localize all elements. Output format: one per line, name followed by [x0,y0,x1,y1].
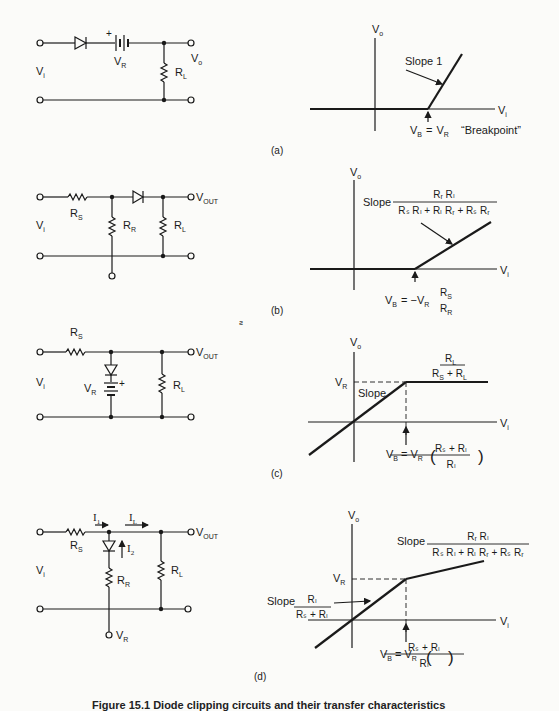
resistor-icon [159,374,165,393]
resistor-icon [161,63,167,82]
input-label-b: Vi [36,219,45,233]
slope2-numerator-d: Rᵣ Rₗ [467,531,489,542]
breakpoint-frac-num-b: RS [440,287,452,300]
diode-icon [133,191,143,203]
battery-icon [116,35,128,51]
y-axis-label-d: Vo [348,509,359,523]
battery-polarity: + [106,28,112,39]
series-label-b: RS [70,207,83,221]
y-axis-label-c: Vo [350,336,361,350]
level-label-d: VR [333,572,345,586]
load-label-b: RL [174,219,186,233]
x-axis-label-c: Vi [500,417,509,431]
breakpoint-frac-den-d: Rₗ [419,658,428,669]
graph-b [310,180,497,290]
shunt-label-d: RR [117,574,130,588]
graph-a [310,38,495,131]
breakpoint-frac-num-d: Rₛ + Rₗ [408,642,440,653]
y-axis-label-b: Vo [350,166,361,180]
output-label-c: VOUT [196,346,219,360]
slope1-denominator-d: Rₛ + Rₗ [296,609,328,620]
slope-numerator-b: Rᵣ Rₗ [433,189,455,200]
resistor-icon [109,217,115,236]
load-label-a: RL [175,66,187,80]
circuit-b [37,191,194,279]
circuit-a [37,35,194,103]
panel-label-d: (d) [254,671,266,682]
slope-denominator-c: RS+RL [432,368,467,381]
battery-label-c: VR [84,382,96,396]
diode-icon [103,541,115,551]
slope2-denominator-d: Rₛ Rₗ + Rₗ Rᵣ + Rₛ Rᵣ [432,547,524,558]
breakpoint-label-b: VB= −VR [385,294,429,308]
battery-icon [104,383,118,395]
circuit-d [37,525,194,638]
current-label-i1: I1 [93,511,101,526]
x-axis-label-b: Vi [500,264,509,278]
breakpoint-label-c: VB= VR [386,448,423,462]
input-label-a: Vi [36,65,45,79]
circuit-c [37,349,194,420]
breakpoint-frac-den-b: RR [440,303,452,316]
panel-label-a: (a) [271,145,283,156]
panel-label-c: (c) [271,468,283,479]
output-label-a: Vo [191,52,202,66]
ref-label-d: VR [116,629,128,643]
diode-icon [105,365,117,375]
output-label-b: VOUT [196,191,219,205]
current-label-il: IL [129,511,137,526]
shunt-label-b: RR [123,219,136,233]
level-label-c: VR [335,376,347,390]
graph-c [308,352,497,462]
diode-icon [75,37,86,49]
figure-caption: Figure 15.1 Diode clipping circuits and … [92,699,445,711]
slope2-word-d: Slope [397,535,425,547]
resistor-icon [160,217,166,236]
resistor-icon [68,194,87,200]
slope1-word-d: Slope [267,595,295,607]
slope-denominator-b: Rₛ Rₗ + Rₗ Rᵣ + Rₛ Rᵣ [398,205,490,216]
battery-label-a: VR [114,55,126,69]
breakpoint-label-a: VB=VR [410,124,449,138]
panel-label-b: (b) [271,305,283,316]
load-label-d: RL [171,564,183,578]
series-label-c: RS [70,326,83,340]
slope-label-a: Slope 1 [405,55,442,67]
battery-polarity-c: + [119,378,125,389]
breakpoint-frac-num-c: Rₛ + Rₗ [435,443,467,454]
load-label-c: RL [173,379,185,393]
stray-mark: ƨ [239,318,243,327]
slope-word-c: Slope [358,387,386,399]
slope-word-b: Slope [363,196,391,208]
input-label-c: Vi [36,376,45,390]
x-axis-label-d: Vi [500,615,509,629]
slope1-numerator-d: Rₗ [307,594,316,605]
slope-numerator-c: RL [445,353,456,366]
breakpoint-note: “Breakpoint” [461,124,521,136]
current-label-i2: I2 [127,542,135,557]
output-label-d: VOUT [196,526,219,540]
resistor-icon [106,568,112,587]
input-label-d: Vi [36,564,45,578]
series-label-d: RS [70,539,83,553]
resistor-icon [158,561,164,580]
x-axis-label-a: Vi [498,104,507,118]
y-axis-label-a: Vo [372,23,383,37]
breakpoint-frac-den-c: Rₗ [446,459,455,470]
paren-right-c: ) [478,447,484,466]
resistor-icon [66,349,85,355]
paren-right-d: ) [448,648,454,667]
resistor-icon [66,529,85,535]
